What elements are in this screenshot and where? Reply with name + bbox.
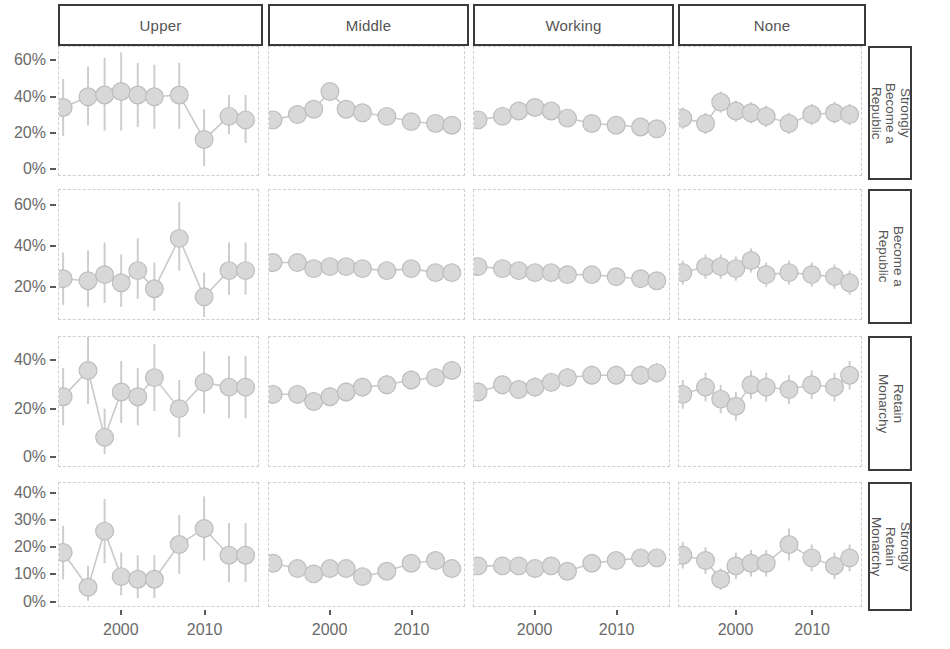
data-point-marker	[170, 86, 188, 104]
y-axis-tick-mark	[50, 546, 56, 548]
x-axis-tick-mark	[120, 610, 122, 615]
y-axis-tick-label: 20%	[0, 539, 46, 555]
facet-column-strip-none: None	[678, 4, 866, 46]
facet-chart-root: UpperMiddleWorkingNoneStrongly Become a …	[0, 0, 950, 649]
panel-working-retain-monarchy	[473, 336, 670, 467]
panel-none-retain-monarchy	[678, 336, 862, 467]
y-axis-tick-label: 40%	[0, 485, 46, 501]
data-point-marker	[648, 272, 666, 290]
data-point-marker	[780, 381, 798, 399]
x-axis-tick-mark	[616, 610, 618, 615]
data-point-marker	[145, 369, 163, 387]
data-point-marker	[780, 536, 798, 554]
data-point-marker	[607, 268, 625, 286]
y-axis-tick-mark	[50, 492, 56, 494]
data-point-marker	[679, 264, 692, 282]
facet-column-label: Upper	[140, 17, 182, 34]
data-point-marker	[402, 371, 420, 389]
y-axis-tick-label: 30%	[0, 512, 46, 528]
data-point-marker	[96, 86, 114, 104]
y-axis-tick-label: 0%	[0, 161, 46, 177]
y-axis-tick-label: 20%	[0, 279, 46, 295]
data-point-marker	[607, 116, 625, 134]
facet-column-strip-working: Working	[473, 4, 674, 46]
data-point-marker	[679, 546, 692, 564]
data-point-marker	[337, 258, 355, 276]
data-point-marker	[526, 560, 544, 578]
y-axis-tick-mark	[50, 59, 56, 61]
facet-row-strip-retain-monarchy: Retain Monarchy	[868, 336, 912, 471]
data-point-marker	[757, 378, 775, 396]
data-point-marker	[494, 107, 512, 125]
data-point-marker	[269, 111, 282, 129]
data-point-marker	[494, 260, 512, 278]
data-point-marker	[96, 428, 114, 446]
y-axis-tick-mark	[50, 359, 56, 361]
data-point-marker	[321, 388, 339, 406]
y-axis-tick-label: 0%	[0, 449, 46, 465]
y-axis-tick-label: 20%	[0, 125, 46, 141]
data-point-marker	[826, 378, 844, 396]
panel-working-strongly-retain-monarchy	[473, 482, 670, 607]
data-point-marker	[559, 109, 577, 127]
panel-middle-strongly-retain-monarchy	[268, 482, 465, 607]
data-point-marker	[378, 107, 396, 125]
data-point-marker	[583, 266, 601, 284]
data-point-marker	[542, 374, 560, 392]
data-point-marker	[145, 570, 163, 588]
data-point-marker	[742, 252, 760, 270]
y-axis-tick-mark	[50, 408, 56, 410]
data-point-marker	[305, 100, 323, 118]
data-point-marker	[378, 376, 396, 394]
panel-middle-strongly-become-a-republic	[268, 46, 465, 176]
panel-working-strongly-become-a-republic	[473, 46, 670, 176]
data-point-marker	[757, 266, 775, 284]
data-point-marker	[305, 565, 323, 583]
data-point-marker	[443, 560, 461, 578]
data-point-marker	[712, 570, 730, 588]
data-point-marker	[402, 113, 420, 131]
data-point-marker	[79, 272, 97, 290]
data-point-marker	[542, 557, 560, 575]
data-point-marker	[780, 264, 798, 282]
data-point-marker	[679, 109, 692, 127]
y-axis-tick-mark	[50, 204, 56, 206]
data-point-marker	[269, 385, 282, 403]
y-axis-tick-label: 60%	[0, 197, 46, 213]
data-point-marker	[494, 376, 512, 394]
data-point-marker	[427, 115, 445, 133]
data-point-marker	[510, 557, 528, 575]
data-point-marker	[170, 536, 188, 554]
panel-none-strongly-retain-monarchy	[678, 482, 862, 607]
data-point-marker	[112, 568, 130, 586]
data-point-marker	[474, 111, 487, 129]
data-point-marker	[129, 570, 147, 588]
panel-upper-strongly-become-a-republic	[58, 46, 259, 176]
data-point-marker	[841, 366, 859, 384]
data-point-marker	[632, 366, 650, 384]
x-axis-tick-label: 2000	[308, 622, 352, 638]
data-point-marker	[780, 115, 798, 133]
data-point-marker	[237, 111, 255, 129]
x-axis-tick-label: 2010	[390, 622, 434, 638]
data-point-marker	[337, 560, 355, 578]
data-point-marker	[757, 554, 775, 572]
data-point-marker	[607, 552, 625, 570]
x-axis-tick-mark	[534, 610, 536, 615]
data-point-marker	[354, 568, 372, 586]
data-point-marker	[494, 557, 512, 575]
data-point-marker	[427, 264, 445, 282]
facet-column-strip-upper: Upper	[58, 4, 263, 46]
y-axis-tick-mark	[50, 601, 56, 603]
data-point-marker	[237, 546, 255, 564]
data-point-marker	[220, 262, 238, 280]
y-axis-tick-mark	[50, 96, 56, 98]
data-point-marker	[443, 116, 461, 134]
panel-middle-retain-monarchy	[268, 336, 465, 467]
data-point-marker	[474, 383, 487, 401]
y-axis-tick-label: 40%	[0, 89, 46, 105]
data-point-marker	[237, 378, 255, 396]
data-point-marker	[337, 383, 355, 401]
data-point-marker	[559, 369, 577, 387]
facet-row-label: Retain Monarchy	[875, 374, 904, 433]
